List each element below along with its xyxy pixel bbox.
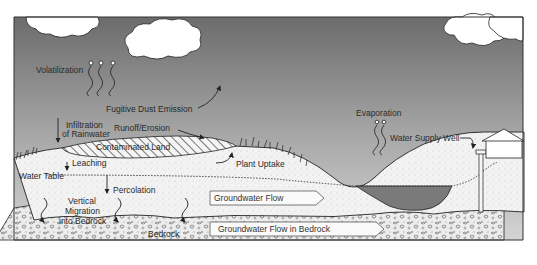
label-vertical-2: Migration <box>65 207 100 216</box>
water-supply-well <box>479 153 483 212</box>
label-runoff: Runoff/Erosion <box>114 124 170 133</box>
label-contaminated-land: Contaminated Land <box>96 143 170 152</box>
label-percolation: Percolation <box>113 186 156 195</box>
label-water-table: Water Table <box>19 172 64 181</box>
label-leaching: Leaching <box>72 159 107 168</box>
label-vertical-3: into Bedrock <box>59 217 106 226</box>
label-volatilization: Volatilization <box>36 66 83 75</box>
label-water-supply-well: Water Supply Well <box>390 134 459 143</box>
label-groundwater-flow-bedrock: Groundwater Flow in Bedrock <box>218 225 330 234</box>
label-bedrock: Bedrock <box>148 230 179 239</box>
label-vertical-1: Vertical <box>68 197 96 206</box>
label-fugitive-dust: Fugitive Dust Emission <box>106 105 192 114</box>
label-infiltration-2: of Rainwater <box>62 130 110 139</box>
label-plant-uptake: Plant Uptake <box>236 160 285 169</box>
label-groundwater-flow: Groundwater Flow <box>214 194 283 203</box>
label-evaporation: Evaporation <box>356 109 401 118</box>
